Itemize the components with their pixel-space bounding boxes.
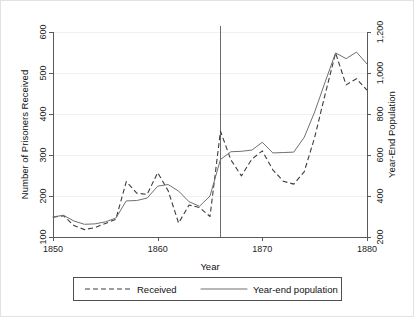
tick-labels-group: 1002003004005006002004006008001,0001,200… (38, 21, 385, 254)
legend-label-2: Year-end population (253, 284, 338, 295)
y2-axis-tick-label: 1,000 (375, 62, 385, 85)
y-axis-tick-label: 100 (38, 229, 48, 244)
series-line-1 (53, 53, 367, 230)
legend-label-1: Received (137, 284, 177, 295)
y2-axis-tick-label: 200 (375, 229, 385, 244)
y2-axis-title: Year-End Population (386, 91, 397, 178)
y-axis-tick-label: 300 (38, 147, 48, 162)
y2-axis-tick-label: 800 (375, 106, 385, 121)
x-axis-tick-label: 1880 (357, 244, 377, 254)
axis-titles-group: Number of Prisoners ReceivedYear-End Pop… (19, 70, 397, 272)
y-axis-tick-label: 400 (38, 106, 48, 121)
y-axis-title: Number of Prisoners Received (19, 70, 30, 199)
y-axis-tick-label: 200 (38, 188, 48, 203)
gridlines-group (53, 33, 367, 238)
tick-marks-group (49, 33, 371, 242)
chart-canvas: 1002003004005006002004006008001,0001,200… (1, 1, 414, 317)
axes-lines-group (53, 32, 368, 238)
series-line-2 (53, 52, 367, 224)
x-axis-tick-label: 1860 (148, 244, 168, 254)
y2-axis-tick-label: 1,200 (375, 21, 385, 44)
y2-axis-tick-label: 600 (375, 147, 385, 162)
chart-figure: 1002003004005006002004006008001,0001,200… (0, 0, 414, 317)
x-axis-title: Year (200, 261, 219, 272)
data-series-group (53, 52, 367, 230)
y-axis-tick-label: 600 (38, 24, 48, 39)
y-axis-tick-label: 500 (38, 65, 48, 80)
x-axis-tick-label: 1870 (252, 244, 272, 254)
y2-axis-tick-label: 400 (375, 188, 385, 203)
x-axis-tick-label: 1850 (43, 244, 63, 254)
chart-legend: ReceivedYear-end population (74, 278, 342, 301)
